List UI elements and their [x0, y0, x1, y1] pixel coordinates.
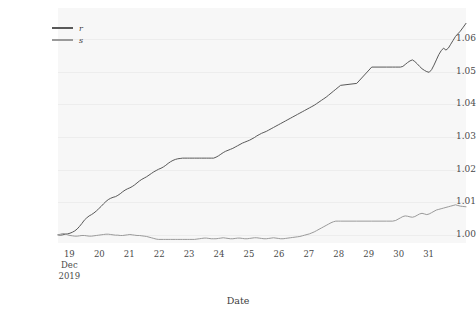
legend-item-r: r: [52, 22, 83, 34]
y-axis-tick-label: 1.03: [424, 132, 476, 141]
series-line-r: [58, 23, 466, 235]
chart-legend: r s: [52, 22, 83, 46]
legend-swatch-s: [52, 39, 73, 41]
series-line-s: [58, 205, 466, 240]
y-axis-tick-label: 1.02: [424, 165, 476, 174]
y-axis-tick-label: 1.00: [424, 230, 476, 239]
legend-label-r: r: [79, 24, 83, 33]
x-axis-title: Date: [0, 295, 476, 306]
y-axis-tick-label: 1.05: [424, 67, 476, 76]
y-axis-tick-label: 1.04: [424, 99, 476, 108]
y-axis-tick-label: 1.01: [424, 197, 476, 206]
legend-item-s: s: [52, 34, 83, 46]
y-axis-tick-label: 1.06: [424, 34, 476, 43]
x-axis-tick-label: 31: [409, 249, 449, 259]
line-chart: 1.001.011.021.031.041.051.06 19202122232…: [0, 0, 476, 322]
x-axis-month-label: Dec: [49, 260, 89, 270]
legend-swatch-r: [52, 27, 73, 29]
legend-label-s: s: [79, 36, 83, 45]
x-axis-year-label: 2019: [49, 271, 89, 281]
